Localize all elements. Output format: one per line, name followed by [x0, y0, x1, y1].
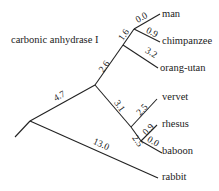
leaf-rhesus: rhesus [162, 118, 189, 129]
root-branch [15, 121, 30, 137]
label-old-world-monkey-stem: 3.1 [112, 98, 127, 114]
label-vervet: 2.5 [134, 102, 150, 118]
label-orang-utan: 3.2 [144, 45, 160, 60]
label-rhesus-baboon-stem: 2.5 [130, 133, 145, 149]
label-primate-stem: 4.7 [52, 89, 67, 104]
leaf-orang-utan: orang-utan [160, 62, 205, 73]
leaf-chimpanzee: chimpanzee [162, 35, 212, 46]
leaf-rabbit: rabbit [162, 171, 187, 182]
leaf-baboon: baboon [162, 145, 193, 156]
label-chimpanzee: 0.9 [145, 25, 160, 39]
label-hominoid-stem: 2.6 [97, 59, 112, 75]
leaf-man: man [162, 8, 180, 19]
leaf-vervet: vervet [162, 91, 188, 102]
branch-rabbit [30, 121, 158, 178]
label-man: 0.0 [134, 10, 150, 25]
label-great-ape-ancestor: 1.6 [116, 27, 131, 43]
